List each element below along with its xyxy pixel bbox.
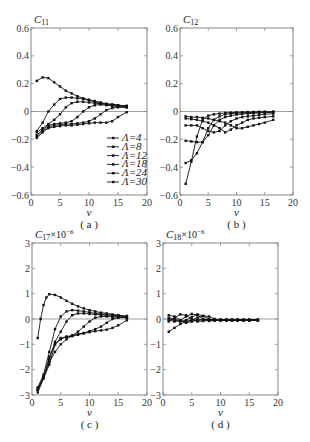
- x-tick-label: 15: [260, 197, 270, 208]
- y-tick-label: 1: [25, 288, 30, 299]
- y-axis-title: C11: [34, 13, 49, 27]
- x-tick-label: 20: [288, 197, 298, 208]
- y-tick-label: −0.6: [160, 190, 178, 201]
- series-lambda-4: [184, 110, 274, 185]
- y-tick-label: −0.2: [160, 134, 178, 145]
- y-tick-label: 0.4: [166, 50, 179, 61]
- y-tick-label: −1: [150, 339, 161, 350]
- y-axis-title: C12: [183, 13, 198, 27]
- y-tick-label: 0: [25, 314, 30, 325]
- x-axis-label: v: [218, 406, 223, 418]
- y-tick-label: 0: [24, 106, 29, 117]
- y-tick-label: −1: [19, 339, 30, 350]
- y-tick-label: −2: [150, 364, 161, 375]
- x-tick-label: 15: [113, 397, 123, 408]
- y-axis-title: C17×10−6: [35, 228, 74, 242]
- y-tick-label: −3: [19, 390, 30, 401]
- chart-panel-a: −0.6−0.4−0.200.20.40.605101520v( a )C11Λ…: [11, 13, 152, 231]
- y-tick-label: 0.4: [17, 50, 30, 61]
- x-tick-label: 15: [244, 397, 254, 408]
- y-tick-label: 3: [156, 238, 161, 249]
- chart-panel-d: −3−2−1012305101520v( d )C18×10−6: [150, 228, 283, 431]
- panel-caption: ( b ): [227, 218, 246, 231]
- x-tick-label: 20: [142, 197, 152, 208]
- y-tick-label: −3: [150, 390, 161, 401]
- y-tick-label: 2: [156, 263, 161, 274]
- x-axis-label: v: [234, 206, 239, 218]
- x-tick-label: 5: [58, 397, 63, 408]
- panel-caption: ( d ): [211, 418, 230, 431]
- y-tick-label: 1: [156, 288, 161, 299]
- x-tick-label: 5: [189, 397, 194, 408]
- x-tick-label: 5: [58, 197, 63, 208]
- x-tick-label: 0: [30, 397, 35, 408]
- y-tick-label: 0: [173, 106, 178, 117]
- chart-panel-b: −0.6−0.4−0.200.20.40.605101520v( b )C12: [160, 13, 298, 231]
- y-tick-label: −0.6: [11, 190, 29, 201]
- y-tick-label: 0.6: [17, 23, 30, 34]
- x-axis-label: v: [87, 206, 92, 218]
- y-tick-label: 3: [25, 238, 30, 249]
- x-tick-label: 0: [161, 397, 166, 408]
- x-tick-label: 20: [273, 397, 283, 408]
- y-tick-label: 0.2: [17, 78, 30, 89]
- panel-caption: ( a ): [80, 218, 98, 231]
- x-tick-label: 0: [178, 197, 183, 208]
- y-tick-label: −2: [19, 364, 30, 375]
- figure-canvas: −0.6−0.4−0.200.20.40.605101520v( a )C11Λ…: [0, 0, 310, 442]
- y-axis-title: C18×10−6: [166, 228, 205, 242]
- series-lambda-4: [36, 76, 128, 107]
- panel-caption: ( c ): [81, 418, 99, 431]
- y-tick-label: 0.6: [166, 23, 179, 34]
- y-tick-label: 2: [25, 263, 30, 274]
- x-tick-label: 0: [29, 197, 34, 208]
- legend-entry: Λ=30: [121, 175, 148, 187]
- y-tick-label: −0.2: [11, 134, 29, 145]
- x-tick-label: 15: [113, 197, 123, 208]
- series-lambda-8: [37, 309, 129, 389]
- legend: Λ=4Λ=8Λ=12Λ=18Λ=24Λ=30: [107, 131, 148, 187]
- y-tick-label: 0.2: [166, 78, 179, 89]
- y-tick-label: −0.4: [160, 162, 178, 173]
- x-axis-label: v: [87, 406, 92, 418]
- chart-panel-c: −3−2−1012305101520v( c )C17×10−6: [19, 228, 152, 431]
- x-tick-label: 5: [206, 197, 211, 208]
- y-tick-label: 0: [156, 314, 161, 325]
- y-tick-label: −0.4: [11, 162, 29, 173]
